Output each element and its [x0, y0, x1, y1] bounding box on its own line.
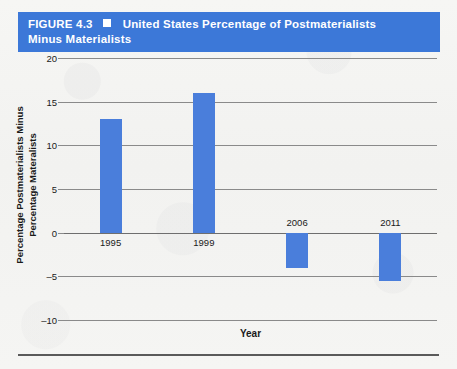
y-tick-label: 10: [46, 140, 57, 151]
bar-2011: [379, 233, 401, 281]
x-tick-label-2006: 2006: [287, 217, 308, 228]
square-bullet-icon: [103, 19, 111, 27]
y-axis-title: Percentage Postmaterialists Minus Percen…: [14, 0, 42, 100]
x-tick-label-1995: 1995: [100, 237, 121, 248]
y-tick-mark: [58, 58, 64, 59]
y-tick-label: –10: [41, 315, 57, 326]
y-tick-mark: [58, 189, 64, 190]
x-tick-label-1999: 1999: [193, 237, 214, 248]
y-tick-mark: [58, 320, 64, 321]
y-tick-mark: [58, 233, 64, 234]
y-tick-label: 0: [52, 227, 57, 238]
figure-banner-line-1: FIGURE 4.3United States Percentage of Po…: [28, 17, 430, 32]
y-tick-label: 15: [46, 96, 57, 107]
y-tick-mark: [58, 145, 64, 146]
y-axis-title-line-1: Percentage Postmaterialists Minus: [14, 106, 25, 263]
y-tick-label: –5: [46, 271, 57, 282]
x-axis-title: Year: [64, 328, 437, 339]
y-tick-mark: [58, 276, 64, 277]
gridline: 20: [64, 58, 437, 59]
bar-1995: [100, 119, 122, 233]
figure-title-line-1: United States Percentage of Postmaterial…: [123, 18, 377, 30]
x-tick-label-2011: 2011: [380, 217, 400, 228]
chart-area: Percentage Postmaterialists Minus Percen…: [0, 52, 457, 352]
bar-1999: [193, 93, 215, 233]
plot-region: 20151050–5–101995199920062011: [64, 58, 437, 320]
y-tick-label: 20: [46, 53, 57, 64]
gridline: –10: [64, 320, 437, 321]
y-tick-label: 5: [52, 184, 57, 195]
y-axis-title-line-2: Percentage Materalists: [27, 133, 38, 237]
figure-banner: FIGURE 4.3United States Percentage of Po…: [18, 12, 440, 52]
y-tick-mark: [58, 102, 64, 103]
bottom-rule: [18, 354, 439, 356]
gridline: 15: [64, 102, 437, 103]
bar-2006: [286, 233, 308, 268]
figure-title-line-2: Minus Materialists: [28, 32, 430, 47]
